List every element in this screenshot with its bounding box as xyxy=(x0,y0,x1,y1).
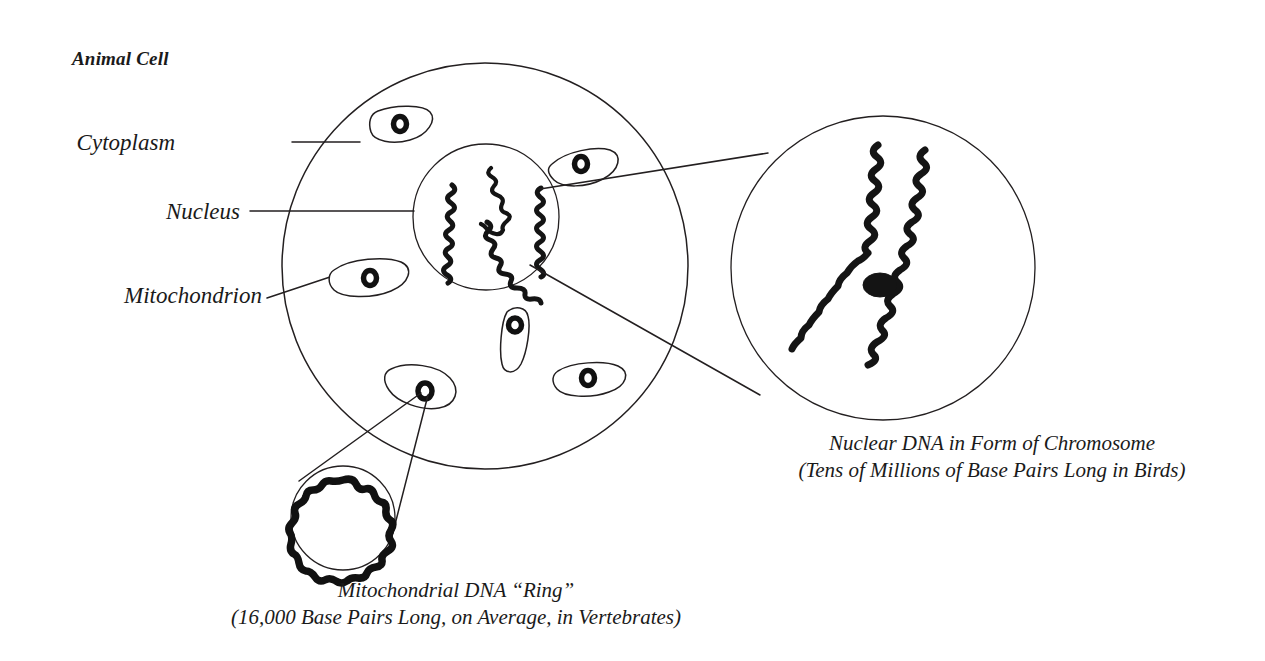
mitodna-magnifier-leader-left xyxy=(299,393,421,481)
label-mitochondrion: Mitochondrion xyxy=(123,283,262,308)
figure-title: Animal Cell xyxy=(71,48,169,69)
nuclear-chromosome-icon xyxy=(481,168,510,234)
label-nucleus: Nucleus xyxy=(165,199,240,224)
mitochondrion-shape xyxy=(501,308,529,372)
mitochondrion-shape xyxy=(370,106,433,142)
chromatid-icon xyxy=(792,145,881,349)
caption-nuclear-dna-line1: Nuclear DNA in Form of Chromosome xyxy=(828,431,1155,455)
animal-cell-diagram: Animal Cell xyxy=(0,0,1265,661)
mitochondrial-dna-ring-icon xyxy=(289,479,393,583)
centromere-icon xyxy=(863,273,897,297)
mitochondrion-shape xyxy=(385,365,456,409)
mitochondrion-shape xyxy=(329,259,408,297)
caption-mito-dna-line2: (16,000 Base Pairs Long, on Average, in … xyxy=(231,605,681,629)
mitochondrion-shape xyxy=(553,363,626,397)
label-cytoplasm: Cytoplasm xyxy=(77,130,175,155)
diagram-canvas: Animal Cell xyxy=(0,0,1265,661)
caption-nuclear-dna-line2: (Tens of Millions of Base Pairs Long in … xyxy=(799,458,1186,482)
caption-mito-dna-line1: Mitochondrial DNA “Ring” xyxy=(337,578,574,602)
mitochondrion-shape xyxy=(548,149,618,186)
nuclear-chromosome-icon xyxy=(444,185,455,283)
